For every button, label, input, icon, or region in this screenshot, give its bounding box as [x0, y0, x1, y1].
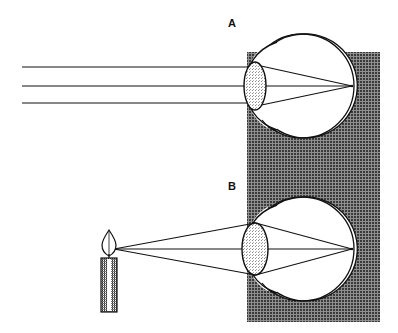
panel-b: B: [101, 180, 357, 312]
eye-optics-figure: A: [0, 0, 398, 333]
parallel-rays-a: [22, 67, 250, 103]
figure-canvas: A: [0, 0, 398, 333]
ray-b-upper: [114, 224, 250, 249]
candle: [101, 230, 117, 312]
panel-b-label: B: [228, 180, 236, 192]
ray-b-lower: [114, 249, 250, 274]
panel-a-label: A: [228, 17, 236, 29]
lens-b: [242, 223, 268, 275]
diverging-rays-b: [114, 224, 250, 274]
lens-a: [244, 62, 266, 110]
focal-point-a: [351, 85, 353, 87]
candle-highlight: [107, 259, 111, 311]
focal-point-b: [351, 248, 353, 250]
panel-a: A: [22, 17, 357, 138]
